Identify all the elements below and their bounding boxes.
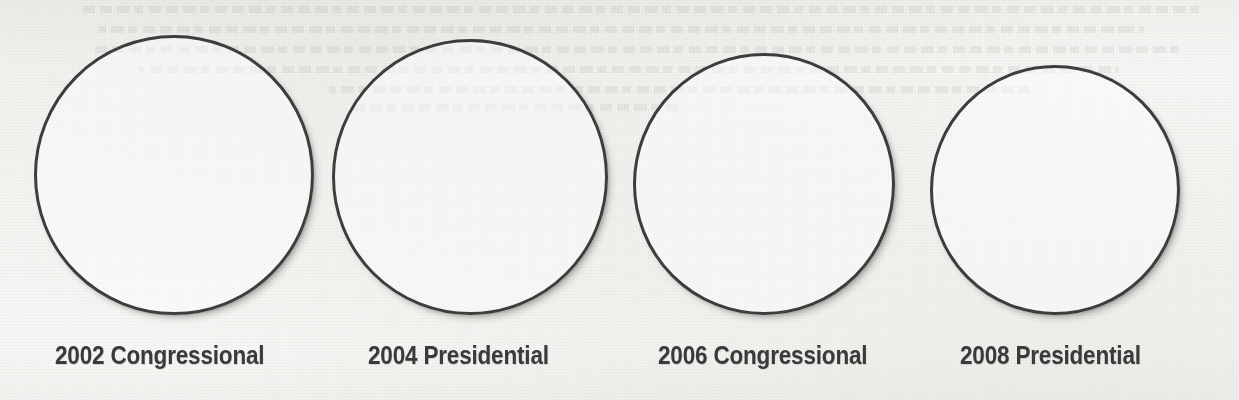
scanned-figure-page: 2002 Congressional 2004 Presidential 200… [0,0,1239,400]
circle-2008-presidential [930,65,1180,315]
circle-label-2006-congressional: 2006 Congressional [658,341,867,369]
circle-2004-presidential [332,39,608,315]
circle-label-2004-presidential: 2004 Presidential [368,341,549,369]
circle-outline-icon [332,39,608,315]
circle-label-2008-presidential: 2008 Presidential [960,341,1141,369]
circle-row: 2002 Congressional 2004 Presidential 200… [0,0,1239,400]
circle-outline-icon [633,53,895,315]
circle-2002-congressional [34,35,314,315]
circle-label-2002-congressional: 2002 Congressional [55,341,264,369]
circle-outline-icon [34,35,314,315]
circle-2006-congressional [633,53,895,315]
circle-outline-icon [930,65,1180,315]
